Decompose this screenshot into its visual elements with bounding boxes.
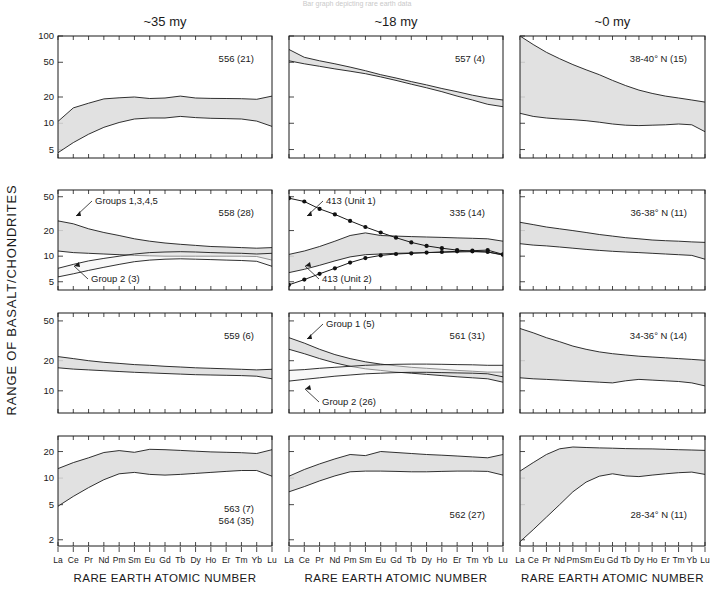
series-point (363, 256, 367, 260)
range-band-range (289, 452, 503, 492)
x-element-label-Pr: Pr (84, 555, 93, 565)
x-element-label-Er: Er (453, 555, 462, 565)
panel-r0c0: 556 (21) (58, 53, 272, 153)
series-point (394, 252, 398, 256)
panel-content (520, 222, 705, 259)
series-point (409, 240, 413, 244)
x-element-label-Pm: Pm (566, 555, 579, 565)
figure-canvas: Bar graph depicting rare earth data~35 m… (0, 0, 715, 611)
x-element-label-Nd: Nd (554, 555, 565, 565)
panel-label-r3c1: 562 (27) (450, 509, 485, 520)
y-tick-label-r2-2: 10 (43, 385, 54, 396)
range-band-range (58, 449, 272, 506)
x-element-label-Sm: Sm (128, 555, 141, 565)
panel-r0c1: 557 (4) (289, 50, 503, 107)
x-element-label-Lu: Lu (498, 555, 508, 565)
x-element-label-Gd: Gd (159, 555, 171, 565)
x-element-label-Pm: Pm (113, 555, 126, 565)
y-tick-label-r0-4: 5 (49, 144, 54, 155)
x-element-label-Pr: Pr (542, 555, 551, 565)
x-element-label-La: La (284, 555, 294, 565)
x-element-label-Nd: Nd (329, 555, 340, 565)
x-element-label-Pr: Pr (315, 555, 324, 565)
panel-label-r3c2: 28-34° N (11) (631, 509, 687, 520)
x-element-label-La: La (515, 555, 525, 565)
panel-r2c2: 34-36° N (14) (520, 329, 705, 386)
x-element-label-Tm: Tm (466, 555, 478, 565)
range-band-range (520, 36, 705, 132)
series-point (425, 244, 429, 248)
range-band-range (58, 357, 272, 379)
x-element-label-Tm: Tm (672, 555, 684, 565)
x-element-label-Sm: Sm (580, 555, 593, 565)
panel-r3c1: 562 (27) (289, 452, 503, 521)
x-element-label-Tm: Tm (235, 555, 247, 565)
x-element-label-Eu: Eu (376, 555, 387, 565)
x-element-label-Dy: Dy (421, 555, 432, 565)
x-element-label-Ce: Ce (299, 555, 310, 565)
column-title-0: ~35 my (144, 14, 187, 29)
y-tick-label-r2-1: 20 (43, 355, 54, 366)
x-element-label-Sm: Sm (359, 555, 372, 565)
series-point (394, 236, 398, 240)
series-point (302, 199, 306, 203)
series-point (348, 261, 352, 265)
y-tick-label-r0-2: 20 (43, 91, 54, 102)
panel-label-r0c1: 557 (4) (455, 53, 485, 64)
series-point (501, 252, 505, 256)
x-element-label-Dy: Dy (190, 555, 201, 565)
range-band-range (58, 96, 272, 153)
series-point (440, 250, 444, 254)
panel-label-r0c0: 556 (21) (219, 53, 254, 64)
panel-r2c1: 561 (31)Group 1 (5)Group 2 (26) (289, 318, 503, 407)
panel-content (520, 36, 705, 132)
series-point (318, 207, 322, 211)
series-point (440, 246, 444, 250)
panel-content (289, 452, 503, 492)
x-element-label-Yb: Yb (252, 555, 263, 565)
x-element-label-La: La (53, 555, 63, 565)
y-tick-label-r0-3: 10 (43, 117, 54, 128)
annotation-groups-1-3-4-5: Groups 1,3,4,5 (95, 195, 158, 206)
x-element-label-Lu: Lu (700, 555, 710, 565)
panel-content (58, 221, 272, 277)
column-title-2: ~0 my (595, 14, 631, 29)
y-tick-label-r1-3: 5 (49, 276, 54, 287)
panel-label-r2c2: 34-36° N (14) (630, 330, 687, 341)
x-element-label-Dy: Dy (634, 555, 645, 565)
x-element-label-Tb: Tb (175, 555, 185, 565)
y-tick-label-r1-0: 50 (43, 191, 54, 202)
annotation-group-2-3-: Group 2 (3) (91, 273, 140, 284)
y-tick-label-r0-0: 100 (38, 30, 54, 41)
y-axis-title: RANGE OF BASALT/CHONDRITES (4, 185, 19, 416)
panel-r2c0: 559 (6) (58, 330, 272, 379)
series-point (333, 266, 337, 270)
x-element-label-Tb: Tb (406, 555, 416, 565)
series-point (455, 249, 459, 253)
series-point (409, 251, 413, 255)
x-element-label-Lu: Lu (267, 555, 277, 565)
annotation-arrowhead (305, 385, 311, 390)
annotation-group-2-26-: Group 2 (26) (322, 396, 376, 407)
x-element-label-Eu: Eu (145, 555, 156, 565)
panel-r3c0: 563 (7)564 (35) (58, 449, 272, 526)
panel-label-r1c0: 558 (28) (219, 207, 254, 218)
annotation-413-unit-2-: 413 (Unit 2) (322, 273, 372, 284)
panel-r1c1: 335 (14)413 (Unit 1)413 (Unit 2) (287, 195, 505, 287)
x-element-label-Pm: Pm (344, 555, 357, 565)
x-element-label-Gd: Gd (607, 555, 619, 565)
y-tick-label-r1-1: 20 (43, 225, 54, 236)
panel-content (58, 357, 272, 379)
panel-label-r3c0-0: 563 (7) (224, 503, 254, 514)
y-tick-label-r3-1: 10 (43, 472, 54, 483)
x-element-label-Ho: Ho (205, 555, 216, 565)
series-point (425, 251, 429, 255)
x-axis-title-2: RARE EARTH ATOMIC NUMBER (521, 572, 704, 584)
panel-r3c2: 28-34° N (11) (520, 447, 705, 542)
range-band-range (520, 447, 705, 542)
annotation-413-unit-1-: 413 (Unit 1) (326, 195, 376, 206)
x-element-label-Ho: Ho (436, 555, 447, 565)
panel-label-r1c2: 36-38° N (11) (631, 207, 687, 218)
series-point (348, 219, 352, 223)
y-tick-label-r0-1: 50 (43, 56, 54, 67)
